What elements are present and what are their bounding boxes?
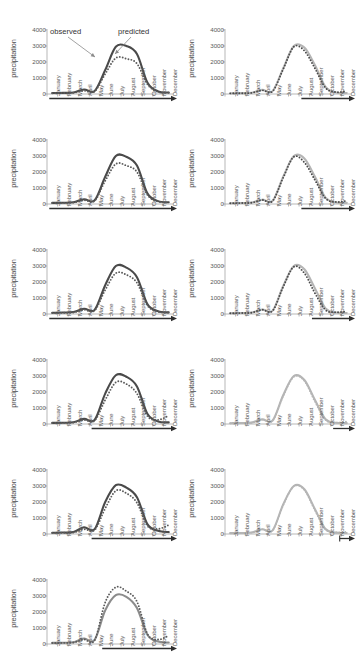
x-tick-label: November [338,289,345,316]
x-tick-label: September [317,68,324,96]
chart-panel: precipitation40003000200010000JanuaryFeb… [0,134,179,244]
x-tick-label: June [285,193,292,206]
y-axis-ticks: 40003000200010000 [20,354,46,422]
x-tick-label: April [264,305,271,316]
y-tick-label: 2000 [200,169,224,175]
y-tick-label: 1000 [200,405,224,411]
x-tick-label: October [328,405,335,426]
y-tick-label: 2000 [22,169,46,175]
x-tick-label: October [328,75,335,96]
x-tick-label: September [139,288,146,316]
y-tick-label: 4000 [22,137,46,143]
x-tick-label: February [243,73,250,96]
x-tick-label: May [97,195,104,206]
x-tick-label: September [139,398,146,426]
x-tick-label: August [129,408,136,426]
x-tick-label: September [317,508,324,536]
y-tick-label: 1000 [200,515,224,521]
x-tick-label: December [171,289,178,316]
x-tick-label: December [171,179,178,206]
x-tick-label: April [264,415,271,426]
x-tick-label: May [97,635,104,646]
y-axis-ticks: 40003000200010000 [198,354,224,422]
y-tick-label: 3000 [22,483,46,489]
x-tick-label: February [65,403,72,426]
chart-panel: precipitation40003000200010000JanuaryFeb… [0,354,179,464]
y-axis-ticks: 40003000200010000 [198,464,224,532]
x-tick-label: November [338,179,345,206]
x-tick-label: November [160,289,167,316]
x-tick-label: October [328,185,335,206]
x-tick-label: December [171,619,178,646]
y-tick-label: 3000 [200,263,224,269]
x-tick-label: February [65,183,72,206]
annotation-arrows [0,24,179,134]
x-tick-label: October [150,405,157,426]
x-tick-label: October [150,295,157,316]
x-tick-label: August [129,628,136,646]
x-tick-label: March [76,300,83,316]
y-tick-label: 4000 [200,357,224,363]
x-tick-label: December [171,509,178,536]
y-axis-ticks: 40003000200010000 [20,244,46,312]
y-tick-label: 4000 [22,467,46,473]
x-tick-label: May [97,305,104,316]
y-tick-label: 0 [200,311,224,317]
y-axis-ticks: 40003000200010000 [198,244,224,312]
x-tick-label: August [307,78,314,96]
x-tick-label: February [65,623,72,646]
x-tick-label: May [275,195,282,206]
x-tick-label: April [264,195,271,206]
x-tick-label: January [232,405,239,426]
x-tick-label: December [349,179,356,206]
x-tick-label: October [150,515,157,536]
figure-canvas: precipitation40003000200010000JanuaryFeb… [0,0,358,660]
x-tick-label: July [296,416,303,426]
x-tick-label: February [243,183,250,206]
x-tick-label: March [76,410,83,426]
y-tick-label: 3000 [200,373,224,379]
x-tick-label: April [86,415,93,426]
x-tick-label: July [296,306,303,316]
x-tick-label: July [118,636,125,646]
x-tick-label: April [86,635,93,646]
y-tick-label: 2000 [22,499,46,505]
y-tick-label: 0 [22,311,46,317]
x-tick-label: August [307,188,314,206]
x-tick-label: June [285,83,292,96]
x-tick-label: May [275,415,282,426]
y-tick-label: 2000 [22,609,46,615]
y-tick-label: 4000 [200,27,224,33]
y-tick-label: 2000 [200,389,224,395]
y-tick-label: 1000 [22,185,46,191]
y-axis-ticks: 40003000200010000 [20,134,46,202]
x-tick-label: September [139,178,146,206]
x-tick-label: November [160,179,167,206]
x-tick-label: November [338,69,345,96]
x-tick-label: December [171,399,178,426]
x-tick-label: September [317,288,324,316]
x-tick-label: September [139,618,146,646]
x-tick-label: June [285,523,292,536]
x-tick-label: February [65,513,72,536]
x-tick-label: November [338,509,345,536]
x-tick-label: March [254,410,261,426]
chart-panel: precipitation40003000200010000JanuaryFeb… [178,354,357,464]
y-tick-label: 3000 [200,43,224,49]
x-tick-label: June [107,633,114,646]
y-tick-label: 1000 [22,405,46,411]
y-tick-label: 3000 [22,263,46,269]
y-tick-label: 1000 [22,515,46,521]
y-axis-ticks: 40003000200010000 [198,134,224,202]
x-tick-label: February [243,403,250,426]
x-tick-label: January [54,405,61,426]
x-tick-label: June [107,303,114,316]
x-tick-label: May [97,415,104,426]
x-tick-label: April [86,525,93,536]
y-tick-label: 0 [22,531,46,537]
x-tick-label: September [139,508,146,536]
y-tick-label: 4000 [200,467,224,473]
y-tick-label: 2000 [22,389,46,395]
y-tick-label: 0 [22,201,46,207]
x-tick-label: July [296,86,303,96]
